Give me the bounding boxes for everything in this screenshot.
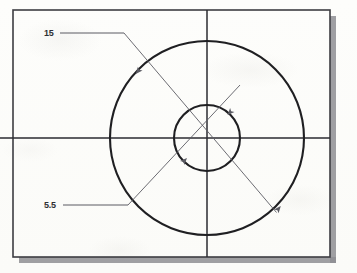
dimension-label-5-5: 5.5 bbox=[44, 200, 56, 210]
dimension-5-5-group bbox=[63, 85, 240, 205]
drawing-canvas: 15 5.5 bbox=[0, 0, 357, 273]
frame-drop-shadow bbox=[19, 16, 336, 263]
technical-drawing-svg bbox=[0, 0, 357, 273]
dimension-label-15: 15 bbox=[44, 28, 54, 38]
shadow-bottom bbox=[19, 257, 336, 263]
shadow-right bbox=[330, 16, 336, 263]
dimension-15-group bbox=[60, 33, 283, 213]
dimension-15-line bbox=[124, 33, 277, 213]
